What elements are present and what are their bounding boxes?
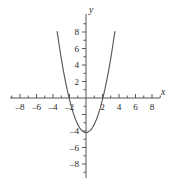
plot-area: –8–6–4–22468 –8–6–42468 x y <box>0 0 173 185</box>
y-axis-tick-label: –6 <box>69 143 80 153</box>
x-axis-tick-label: –6 <box>31 102 42 112</box>
x-axis-tick-label: 6 <box>133 102 138 112</box>
x-axis-label: x <box>160 87 166 97</box>
y-axis-tick-label: 6 <box>74 44 79 54</box>
x-axis-tick-label-group: –8–6–4–22468 <box>14 102 154 112</box>
x-axis-tick-label: 8 <box>150 102 155 112</box>
y-axis-tick-label: 8 <box>74 27 79 37</box>
y-axis-tick-label: 4 <box>74 60 79 70</box>
x-axis-tick-label: 4 <box>117 102 122 112</box>
parabola-graph-figure: –8–6–4–22468 –8–6–42468 x y <box>0 0 173 185</box>
y-axis-tick-label: –8 <box>69 159 80 169</box>
y-axis-tick-label: 2 <box>74 77 79 87</box>
x-axis-tick-label: –8 <box>14 102 25 112</box>
x-axis-tick-label: –2 <box>64 102 75 112</box>
y-axis-label: y <box>88 5 94 15</box>
x-axis-tick-label: 2 <box>100 102 105 112</box>
x-axis-tick-label: –4 <box>47 102 58 112</box>
y-axis-tick-label: –4 <box>69 126 80 136</box>
